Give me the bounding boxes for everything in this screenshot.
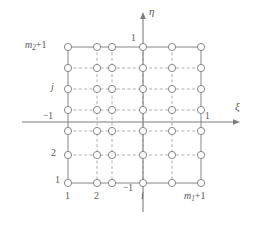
grid-node: [108, 85, 115, 92]
grid-diagram-canvas: [0, 0, 259, 230]
grid-node: [139, 43, 146, 50]
grid-boundary: [68, 47, 201, 183]
xi-axis-arrow-icon: [233, 119, 240, 125]
grid-node: [64, 179, 71, 186]
grid-node: [108, 64, 115, 71]
grid-node: [139, 151, 146, 158]
xi-right-tick-label: 1: [205, 112, 210, 122]
grid-node: [139, 64, 146, 71]
grid-node: [64, 64, 71, 71]
eta-axis-arrow-icon: [140, 12, 146, 19]
grid-node: [108, 179, 115, 186]
grid-node: [64, 85, 71, 92]
grid-node: [108, 151, 115, 158]
grid-node: [64, 151, 71, 158]
eta-top-tick-label: 1: [131, 34, 136, 44]
grid-node: [168, 127, 175, 134]
row-label-1: 1: [55, 175, 60, 185]
dashed-gridlines: [68, 47, 201, 183]
grid-node: [64, 106, 71, 113]
xi-axis-label: ξ: [235, 101, 240, 112]
grid-node: [168, 151, 175, 158]
grid-node: [93, 85, 100, 92]
grid-node: [139, 179, 146, 186]
grid-node: [168, 64, 175, 71]
grid-node: [139, 127, 146, 134]
grid-node: [168, 85, 175, 92]
eta-axis-label: η: [149, 6, 154, 17]
grid-node: [93, 43, 100, 50]
grid-node: [64, 127, 71, 134]
row-label-m2-plus-1: m2+1: [25, 40, 46, 52]
grid-node: [168, 179, 175, 186]
row-label-m2-suffix: +1: [36, 39, 47, 50]
grid-node: [139, 85, 146, 92]
row-label-2: 2: [51, 148, 56, 158]
grid-diagram-figure: η ξ 1 1 −1 −1 m2+1 j 2 1 1 2 i m1+1: [0, 0, 259, 230]
xi-left-tick-label: −1: [43, 112, 53, 122]
grid-node: [93, 151, 100, 158]
grid-node: [197, 85, 204, 92]
grid-node: [197, 179, 204, 186]
grid-node: [108, 127, 115, 134]
grid-node: [93, 64, 100, 71]
col-label-i: i: [141, 191, 144, 201]
grid-node: [197, 127, 204, 134]
grid-node: [168, 106, 175, 113]
grid-node: [168, 43, 175, 50]
grid-node: [197, 43, 204, 50]
col-label-m1-suffix: +1: [195, 190, 206, 201]
row-label-j: j: [51, 82, 54, 92]
grid-node: [64, 43, 71, 50]
col-label-2: 2: [94, 191, 99, 201]
col-label-m1-plus-1: m1+1: [184, 191, 205, 203]
grid-node: [139, 106, 146, 113]
grid-node: [197, 64, 204, 71]
grid-node: [197, 151, 204, 158]
grid-node: [93, 179, 100, 186]
col-label-1: 1: [65, 191, 70, 201]
grid-node: [93, 106, 100, 113]
eta-bottom-tick-label: −1: [123, 184, 133, 194]
grid-nodes: [64, 43, 204, 186]
grid-node: [108, 106, 115, 113]
grid-node: [93, 127, 100, 134]
grid-node: [197, 106, 204, 113]
grid-node: [108, 43, 115, 50]
